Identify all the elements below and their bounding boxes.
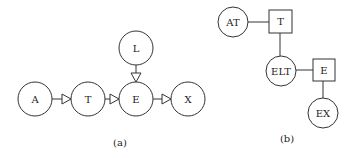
node-l: L	[119, 31, 153, 65]
caption-a: (a)	[113, 137, 127, 148]
node-label: A	[30, 94, 39, 105]
node-ex: EX	[308, 98, 338, 128]
node-label: ELT	[271, 66, 291, 77]
diagram-b: AT T ELT E EX (b)	[218, 7, 338, 144]
node-label: AT	[225, 17, 240, 28]
node-a: A	[18, 82, 52, 116]
diagram-a: A T E L X (a)	[18, 31, 205, 148]
factor-t: T	[269, 10, 292, 33]
node-label: T	[85, 94, 92, 105]
node-label: X	[184, 94, 192, 105]
node-label: L	[133, 43, 140, 54]
node-at: AT	[218, 7, 248, 37]
arrowhead-icon	[162, 94, 171, 104]
node-elt: ELT	[266, 56, 296, 86]
node-t: T	[71, 82, 105, 116]
node-label: E	[320, 65, 327, 76]
arrowhead-icon	[62, 94, 71, 104]
node-label: E	[132, 94, 139, 105]
caption-b: (b)	[280, 133, 294, 144]
node-label: EX	[316, 108, 331, 119]
arrowhead-icon	[131, 73, 141, 82]
figure: A T E L X (a) AT	[0, 0, 355, 158]
factor-e: E	[313, 59, 335, 81]
arrowhead-icon	[110, 94, 119, 104]
node-x: X	[171, 82, 205, 116]
node-label: T	[277, 16, 284, 27]
node-e: E	[119, 82, 153, 116]
